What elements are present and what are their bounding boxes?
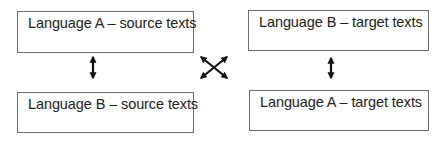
box-language-b-source-texts: Language B – source texts — [17, 92, 194, 133]
box-language-b-target-texts: Language B – target texts — [248, 10, 429, 51]
box-language-a-target-texts: Language A – target texts — [249, 90, 429, 131]
diagonal-bidirectional-arrow-tl-br — [201, 57, 227, 78]
box-label: Language A – source texts — [28, 15, 196, 31]
box-label: Language B – source texts — [28, 96, 198, 112]
diagonal-bidirectional-arrow-tr-bl — [201, 57, 227, 78]
box-language-a-source-texts: Language A – source texts — [17, 11, 194, 53]
box-label: Language B – target texts — [259, 14, 423, 30]
box-label: Language A – target texts — [260, 94, 422, 110]
